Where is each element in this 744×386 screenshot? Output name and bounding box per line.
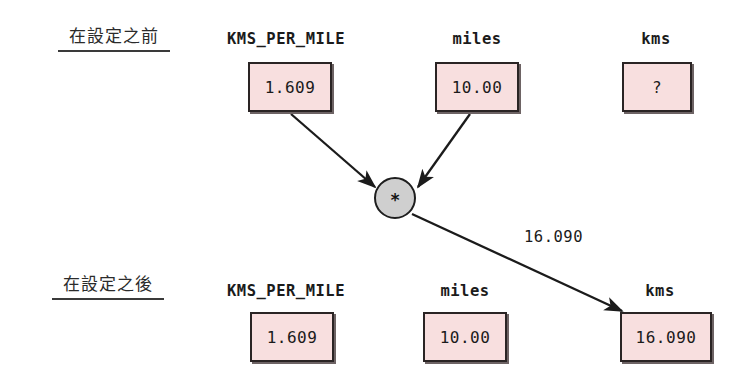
arrow-miles-to-operator: [418, 114, 470, 187]
var-box-before-kms-per-mile: 1.609: [248, 62, 332, 112]
operator-node-multiply: *: [374, 177, 416, 219]
var-box-after-kms: 16.090: [620, 312, 712, 362]
var-value-after-kms: 16.090: [636, 328, 697, 347]
var-name-before-kms: kms: [621, 30, 691, 48]
operator-symbol: *: [390, 192, 400, 209]
var-value-before-kms-per-mile: 1.609: [265, 78, 316, 97]
edge-label-result: 16.090: [524, 228, 583, 246]
var-box-after-kms-per-mile: 1.609: [250, 312, 334, 362]
var-name-before-miles: miles: [432, 30, 522, 48]
var-name-after-kms-per-mile: KMS_PER_MILE: [200, 282, 372, 300]
arrow-kms-per-mile-to-operator: [291, 114, 375, 187]
assignment-trace-diagram: 在設定之前 KMS_PER_MILE 1.609 miles 10.00 kms…: [0, 0, 744, 386]
var-name-after-miles: miles: [420, 282, 510, 300]
stage-label-after: 在設定之後: [52, 270, 164, 300]
stage-label-before: 在設定之前: [58, 22, 170, 52]
var-box-after-miles: 10.00: [423, 312, 507, 362]
var-value-after-miles: 10.00: [440, 328, 491, 347]
var-value-before-kms: ?: [652, 78, 662, 97]
var-name-before-kms-per-mile: KMS_PER_MILE: [200, 30, 372, 48]
var-box-before-miles: 10.00: [435, 62, 519, 112]
var-box-before-kms: ?: [622, 62, 692, 112]
var-value-before-miles: 10.00: [452, 78, 503, 97]
var-name-after-kms: kms: [625, 282, 695, 300]
var-value-after-kms-per-mile: 1.609: [267, 328, 318, 347]
